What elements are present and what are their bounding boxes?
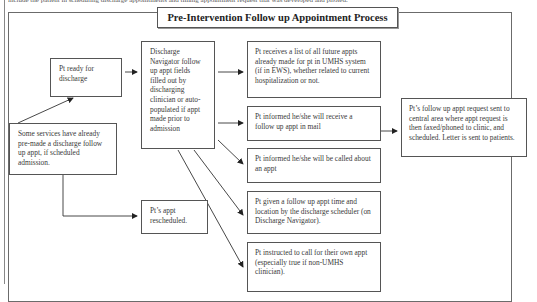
node-premade-appt: Some services have already pre-made a di… bbox=[9, 123, 117, 175]
node-pt-ready: Pt ready for discharge bbox=[50, 58, 122, 97]
node-central-request: Pt’s follow up appt request sent to cent… bbox=[401, 98, 527, 157]
node-outcome-call-own: Pt instructed to call for their own appt… bbox=[247, 242, 381, 292]
node-outcome-called: Pt informed he/she will be called about … bbox=[247, 148, 381, 183]
diagram-title: Pre-Intervention Follow up Appointment P… bbox=[157, 7, 398, 28]
node-discharge-navigator: Discharge Navigator follow up appt field… bbox=[141, 41, 215, 149]
node-appt-rescheduled: Pt’s appt rescheduled. bbox=[141, 200, 208, 234]
node-outcome-mail: Pt informed he/she will receive a follow… bbox=[247, 106, 381, 141]
node-outcome-list: Pt receives a list of all future appts a… bbox=[247, 41, 381, 98]
node-outcome-given: Pt given a follow up appt time and locat… bbox=[247, 191, 381, 234]
